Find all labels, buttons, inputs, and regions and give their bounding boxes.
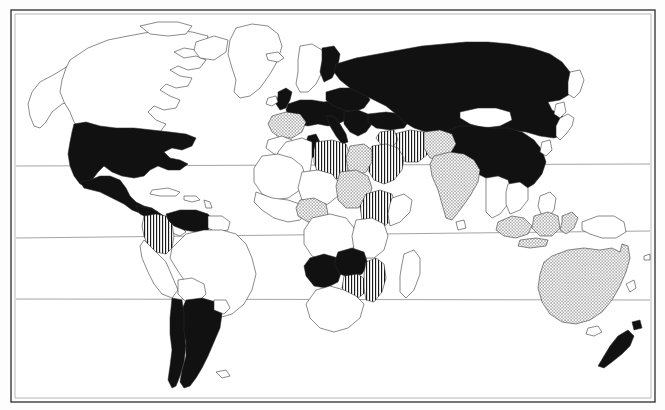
region-new-zealand-north [632,320,642,330]
region-indonesia-borneo [532,212,560,236]
world-map-canvas [0,0,665,410]
region-indonesia-java [518,238,548,248]
world-map-figure [0,0,665,410]
region-sri-lanka [456,220,466,230]
